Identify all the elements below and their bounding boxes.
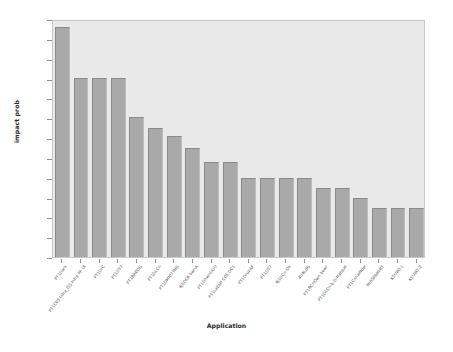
y-axis-tick-mark <box>47 20 52 21</box>
bar <box>353 198 368 258</box>
bar <box>391 208 406 257</box>
x-axis-tick-mark <box>341 259 342 263</box>
bar <box>409 208 424 257</box>
bar <box>55 27 70 257</box>
x-axis-tick-label: PT1BR0DG <box>125 264 143 285</box>
bar <box>372 208 387 257</box>
x-axis-tick-mark <box>173 259 174 263</box>
bar <box>241 178 256 257</box>
bar <box>260 178 275 257</box>
bar <box>111 78 126 257</box>
x-axis-tick-mark <box>248 259 249 263</box>
bar <box>74 78 89 257</box>
x-axis-tick-label: PT1Dark <box>53 264 68 281</box>
bar <box>148 128 163 257</box>
bar <box>92 78 107 257</box>
bar <box>335 188 350 257</box>
x-axis-tick-label: 4U4LdG <box>297 264 311 280</box>
y-axis-title: impact prob <box>13 82 20 162</box>
x-axis-tick-mark <box>416 259 417 263</box>
bar <box>204 162 219 257</box>
x-axis-tick-mark <box>229 259 230 263</box>
y-axis-tick-mark <box>47 80 52 81</box>
x-axis-tick-mark <box>266 259 267 263</box>
bar <box>297 178 312 257</box>
x-axis-tick-mark <box>80 259 81 263</box>
x-axis-tick-label: K5U8O-J <box>389 264 404 281</box>
x-axis-tick-mark <box>285 259 286 263</box>
x-axis-tick-mark <box>378 259 379 263</box>
x-axis-tick-label: PT1DrC <box>92 264 106 279</box>
plot-area <box>52 20 425 258</box>
x-axis-tick-label: PT1C05 Infra_OS Infra FP UI <box>47 264 87 313</box>
y-axis-tick-mark <box>47 60 52 61</box>
y-axis-tick-mark <box>47 258 52 259</box>
x-axis-tick-label: PT1CnnwNdw <box>345 264 366 290</box>
x-axis-tick-label: PT1DT7 <box>260 264 274 280</box>
bar <box>129 117 144 257</box>
x-axis-tick-label: PT1DrukAF <box>237 264 255 285</box>
x-axis-tick-label: PT1DT7 <box>110 264 124 280</box>
y-axis-tick-mark <box>47 40 52 41</box>
x-axis-tick-mark <box>397 259 398 263</box>
y-axis-tick-mark <box>47 119 52 120</box>
x-axis-tick-mark <box>304 259 305 263</box>
x-axis-tick-mark <box>192 259 193 263</box>
x-axis-tick-mark <box>322 259 323 263</box>
x-axis-tick-mark <box>117 259 118 263</box>
bar <box>279 178 294 257</box>
x-axis-tick-label: NtRSPARkRT <box>365 264 385 287</box>
y-axis-tick-mark <box>47 218 52 219</box>
x-axis-tick-mark <box>211 259 212 263</box>
bar <box>185 148 200 257</box>
x-axis-tick-mark <box>136 259 137 263</box>
x-axis-tick-mark <box>61 259 62 263</box>
y-axis-tick-mark <box>47 199 52 200</box>
y-axis-tick-mark <box>47 139 52 140</box>
x-axis-tick-label: K5U8O-Z <box>407 264 423 282</box>
x-axis-title: Application <box>0 322 453 329</box>
plot-inner <box>53 21 424 257</box>
x-axis-tick-mark <box>99 259 100 263</box>
y-axis-tick-mark <box>47 238 52 239</box>
y-axis-tick-mark <box>47 159 52 160</box>
bar <box>223 162 238 257</box>
x-axis-tick-mark <box>155 259 156 263</box>
bar <box>167 136 182 257</box>
x-axis-tick-label: 4J1DCn-Ok <box>274 264 292 285</box>
x-axis-tick-label: PT1DLCn <box>146 264 162 282</box>
y-axis-tick-mark <box>47 99 52 100</box>
bar-chart-figure: impact prob 0.0000.0250.0500.0750.1000.1… <box>0 0 453 352</box>
x-axis-tick-mark <box>360 259 361 263</box>
bar <box>316 188 331 257</box>
y-axis-tick-mark <box>47 179 52 180</box>
